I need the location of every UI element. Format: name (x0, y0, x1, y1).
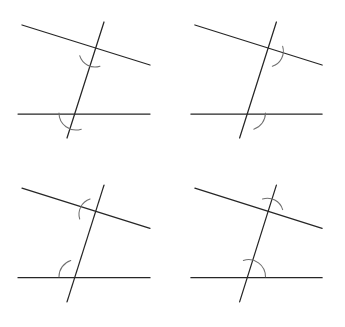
lower-intersection-angle-arc (243, 260, 265, 277)
panel-top-right (173, 0, 345, 163)
lower-intersection-angle-arc (254, 113, 266, 129)
geometry-figure (0, 0, 345, 327)
panel-bottom-right (173, 163, 345, 327)
panel-bottom-left (0, 163, 173, 327)
panel-top-right-canvas (173, 0, 345, 163)
upper-intersection-angle-arc (263, 198, 283, 209)
top-line (22, 25, 150, 65)
top-line (22, 188, 150, 228)
transversal-line (240, 185, 277, 302)
panel-top-left-canvas (0, 0, 173, 163)
transversal-line (67, 22, 104, 138)
top-line (195, 188, 322, 228)
panel-bottom-left-canvas (0, 163, 173, 327)
lower-intersection-angle-arc (59, 260, 71, 276)
panel-grid (0, 0, 345, 327)
panel-top-left (0, 0, 173, 163)
panel-bottom-right-canvas (173, 163, 345, 327)
top-line (195, 25, 322, 65)
transversal-line (240, 22, 277, 138)
transversal-line (67, 185, 104, 302)
